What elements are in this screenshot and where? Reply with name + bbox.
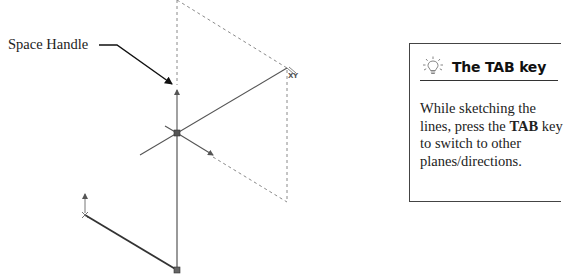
direction-arrow-down-right [177,133,213,155]
tip-body-key: TAB [509,118,538,134]
space-handle-label: Space Handle [8,36,88,53]
sketch-lines [85,68,287,270]
base-line [85,215,177,270]
tip-box: The TAB key While sketching the lines, p… [409,43,561,202]
tip-header: The TAB key [420,56,558,81]
space-handle-leader [99,45,172,84]
center-node [174,130,180,136]
lightbulb-icon [422,56,444,78]
end-node [174,267,180,273]
tip-title: The TAB key [452,59,546,75]
tip-body: While sketching the lines, press the TAB… [420,100,565,170]
diagonal-line [140,68,287,155]
origin-triad-icon [82,194,88,218]
xy-plane-label: XY [288,72,297,80]
